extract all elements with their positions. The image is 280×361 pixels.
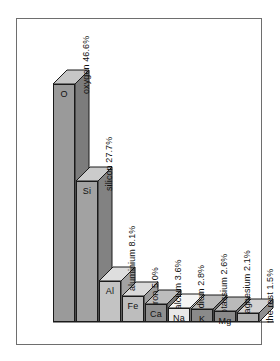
bar-symbol-Ca: Ca	[146, 309, 166, 319]
bar-front-face: K	[191, 309, 213, 322]
bar-iron[interactable]: Feiron 5.0%	[122, 296, 144, 322]
bar-front-face: Ca	[145, 304, 167, 322]
bar-magnesium[interactable]: Mgmagnesium 2.1%	[214, 311, 236, 322]
bar-sodium[interactable]: Nasodium 2.8%	[168, 308, 190, 322]
bar-aluminium[interactable]: Alaluminium 8.1%	[99, 281, 121, 322]
bar-front-face: O	[53, 84, 75, 322]
bar-front-face: Si	[76, 181, 98, 322]
plot-area: Ooxygen 46.6%Sisilicon 27.7%Alaluminium …	[17, 19, 263, 346]
bar-symbol-Fe: Fe	[123, 301, 143, 311]
bar-silicon[interactable]: Sisilicon 27.7%	[76, 181, 98, 322]
bar-label-aluminium: aluminium 8.1%	[128, 226, 137, 291]
bar-symbol-Na: Na	[169, 313, 189, 323]
bar-label-potassium: potassium 2.6%	[220, 254, 229, 319]
bar-label-silicon: silicon 27.7%	[105, 137, 114, 191]
bar-potassium[interactable]: Kpotassium 2.6%	[191, 309, 213, 322]
bar-label-calcium: calcium 3.6%	[174, 259, 183, 314]
bar-front-face	[237, 313, 259, 322]
bar-symbol-Al: Al	[100, 286, 120, 296]
bar-label-iron: iron 5.0%	[151, 267, 160, 306]
chart-frame: Ooxygen 46.6%Sisilicon 27.7%Alaluminium …	[16, 18, 262, 345]
bar-label-oxygen: oxygen 46.6%	[82, 36, 91, 94]
bar-front-face: Na	[168, 308, 190, 322]
bar-calcium[interactable]: Cacalcium 3.6%	[145, 304, 167, 322]
bar-the-rest[interactable]: the rest 1.5%	[237, 313, 259, 322]
bar-front-face: Mg	[214, 311, 236, 322]
bar-label-the-rest: the rest 1.5%	[266, 269, 275, 323]
bar-label-magnesium: magnesium 2.1%	[243, 250, 252, 321]
bar-symbol-O: O	[54, 89, 74, 99]
bar-front-face: Al	[99, 281, 121, 322]
bar-oxygen[interactable]: Ooxygen 46.6%	[53, 84, 75, 322]
bar-symbol-Si: Si	[77, 186, 97, 196]
bar-front-face: Fe	[122, 296, 144, 322]
chart-figure: Ooxygen 46.6%Sisilicon 27.7%Alaluminium …	[0, 0, 280, 361]
